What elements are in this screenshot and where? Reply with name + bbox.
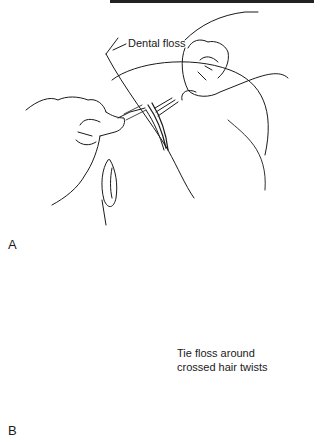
dental-floss-label: Dental floss [128,37,185,50]
tie-floss-label-line2: crossed hair twists [177,361,267,374]
tie-floss-label-line1: Tie floss around [177,347,255,360]
panel-a-letter: A [8,237,17,252]
panel-b-letter: B [8,423,17,436]
